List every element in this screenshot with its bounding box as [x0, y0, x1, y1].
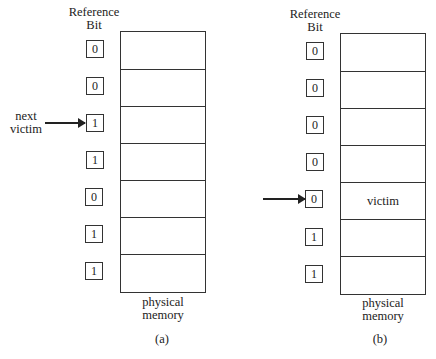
reference-bit: 1 — [305, 265, 323, 283]
reference-bit: 0 — [306, 153, 324, 171]
physical-memory: victim — [340, 33, 426, 295]
reference-bit-header: Reference Bit — [289, 8, 341, 34]
reference-bit: 0 — [306, 116, 324, 134]
memory-frame-victim: victim — [341, 182, 425, 219]
caption-b: (b) — [358, 333, 402, 346]
memory-frame — [341, 219, 425, 256]
reference-bit: 1 — [305, 228, 323, 246]
physical-memory-label: physical memory — [340, 297, 426, 323]
memory-label-line2: memory — [340, 310, 426, 323]
reference-bit: 0 — [305, 190, 323, 208]
memory-frame — [341, 145, 425, 182]
panel-b: Reference Bit victim 0 0 0 0 0 1 1 physi… — [0, 0, 436, 359]
reference-bit: 0 — [306, 42, 324, 60]
memory-frame — [341, 108, 425, 145]
memory-frame — [341, 256, 425, 294]
reference-bit: 0 — [306, 79, 324, 97]
memory-frame — [341, 71, 425, 108]
pointer-arrow-icon — [263, 198, 305, 200]
memory-frame — [341, 34, 425, 71]
header-line2: Bit — [289, 21, 341, 34]
